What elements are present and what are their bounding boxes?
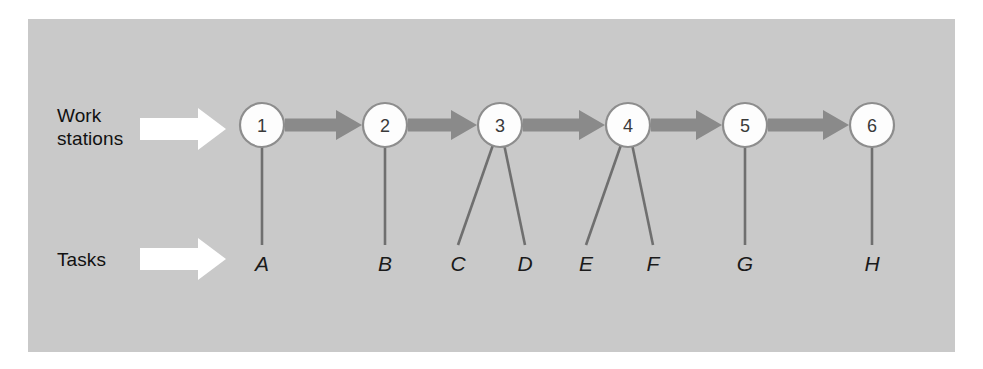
station-number-4: 4 xyxy=(623,116,633,136)
flow-arrow-5-to-6 xyxy=(768,110,849,140)
diagram-canvas: 123456 ABCDEFGH xyxy=(0,0,983,369)
task-label-B: B xyxy=(378,252,392,275)
station-node-6[interactable]: 6 xyxy=(850,103,894,147)
station-node-2[interactable]: 2 xyxy=(363,103,407,147)
flow-arrow-2-to-3 xyxy=(408,110,477,140)
flow-arrow-1-to-2 xyxy=(285,110,362,140)
tasks-pointer-arrow-icon xyxy=(140,238,226,280)
station-number-2: 2 xyxy=(380,116,390,136)
station-node-5[interactable]: 5 xyxy=(723,103,767,147)
task-label-A: A xyxy=(253,252,269,275)
station-task-connectors xyxy=(262,146,872,245)
task-label-F: F xyxy=(647,252,661,275)
flow-arrow-3-to-4 xyxy=(523,110,605,140)
task-label-G: G xyxy=(737,252,753,275)
station-number-5: 5 xyxy=(740,116,750,136)
connector-station-3-task-D xyxy=(505,147,526,246)
task-label-D: D xyxy=(517,252,532,275)
workstations-pointer-arrow-icon xyxy=(140,108,226,150)
connector-station-4-task-E xyxy=(586,146,621,245)
station-node-3[interactable]: 3 xyxy=(478,103,522,147)
station-number-1: 1 xyxy=(257,116,267,136)
station-node-1[interactable]: 1 xyxy=(240,103,284,147)
task-label-E: E xyxy=(579,252,594,275)
task-labels: ABCDEFGH xyxy=(253,252,880,275)
station-number-6: 6 xyxy=(867,116,877,136)
flow-arrow-4-to-5 xyxy=(651,110,722,140)
task-label-C: C xyxy=(450,252,466,275)
station-number-3: 3 xyxy=(495,116,505,136)
workstation-task-diagram: Work stations Tasks 123456 ABCDEFGH xyxy=(0,0,983,369)
task-label-H: H xyxy=(864,252,880,275)
connector-station-3-task-C xyxy=(458,146,493,245)
connector-station-4-task-F xyxy=(633,147,654,246)
station-node-4[interactable]: 4 xyxy=(606,103,650,147)
